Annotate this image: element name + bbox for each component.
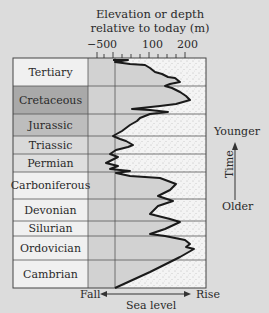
time-axis-label: Time xyxy=(223,150,236,178)
period-ordovician: Ordovician xyxy=(13,236,88,260)
period-permian: Permian xyxy=(13,154,88,172)
sea-level-rise-label: Rise xyxy=(196,288,220,301)
period-cretaceous: Cretaceous xyxy=(13,86,88,114)
time-older-label: Older xyxy=(222,200,253,213)
period-devonian: Devonian xyxy=(13,199,88,221)
sea-level-label: Sea level xyxy=(126,299,176,312)
period-jurassic: Jurassic xyxy=(13,114,88,136)
period-tertiary: Tertiary xyxy=(13,58,88,86)
period-carboniferous: Carboniferous xyxy=(13,172,88,199)
period-triassic: Triassic xyxy=(13,136,88,154)
axis-ticks xyxy=(97,52,185,58)
sea-level-arrow xyxy=(100,291,191,297)
period-cambrian: Cambrian xyxy=(13,260,88,288)
time-younger-label: Younger xyxy=(214,125,260,138)
period-silurian: Silurian xyxy=(13,221,88,236)
sea-level-fall-label: Fall xyxy=(80,288,100,301)
